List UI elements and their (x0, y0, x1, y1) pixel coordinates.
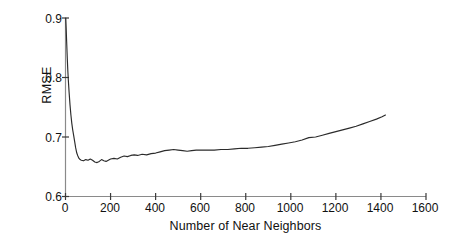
rmse-curve (66, 18, 386, 163)
plot-area (0, 0, 459, 247)
chart-figure: RMSE 0.9 0.8 0.7 0.6 0 200 400 600 800 1… (0, 0, 459, 247)
axes (66, 18, 427, 197)
